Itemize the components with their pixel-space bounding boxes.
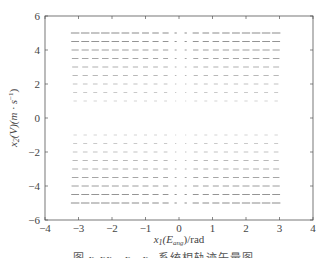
y-tick-label: 6 <box>35 10 41 22</box>
quiver-field <box>71 33 281 203</box>
x-tick-label: 3 <box>277 222 283 234</box>
x-tick-label: −4 <box>39 222 51 234</box>
x-tick-label: 2 <box>243 222 249 234</box>
y-tick-label: 2 <box>35 78 41 90</box>
x-tick-label: 1 <box>210 222 216 234</box>
y-axis-label: x2(V)(m · s−1) <box>7 89 21 149</box>
y-ticks: −6−4−20246 <box>28 10 313 226</box>
y-tick-label: −6 <box>28 214 40 226</box>
y-tick-label: −2 <box>28 146 40 158</box>
y-tick-label: 0 <box>35 112 41 124</box>
y-tick-label: 4 <box>35 44 41 56</box>
x-ticks: −4−3−2−101234 <box>39 16 316 234</box>
x-tick-label: 0 <box>176 222 182 234</box>
phase-portrait-chart: −4−3−2−101234 −6−4−20246 x1(Eang)/rad x2… <box>0 0 327 258</box>
x-tick-label: −1 <box>140 222 152 234</box>
x-tick-label: 4 <box>310 222 316 234</box>
x-tick-label: −2 <box>106 222 118 234</box>
x-tick-label: −3 <box>73 222 85 234</box>
x-axis-label: x1(Eang)/rad <box>153 233 205 247</box>
y-tick-label: −4 <box>28 180 40 192</box>
plot-frame <box>45 16 313 220</box>
figure-caption: 图 x-xx x₁–x₂ 系统相轨迹矢量图 <box>0 251 327 258</box>
